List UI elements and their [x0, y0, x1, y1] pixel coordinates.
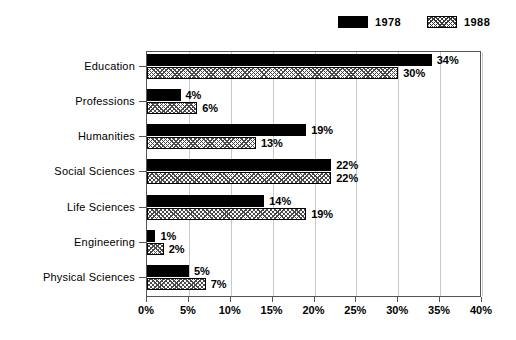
bar-value-label: 6%: [202, 102, 218, 114]
x-axis-tick: [146, 297, 147, 302]
bar-1988: [147, 102, 197, 114]
x-axis-labels: 0%5%10%15%20%25%30%35%40%: [0, 304, 516, 320]
bar-value-label: 4%: [186, 89, 202, 101]
bar-value-label: 14%: [269, 195, 291, 207]
plot-area: 34%30%4%6%19%13%22%22%14%19%1%2%5%7%: [146, 51, 481, 297]
x-axis-tick: [439, 297, 440, 302]
y-axis-tick: [139, 207, 146, 208]
bar-value-label: 22%: [336, 159, 358, 171]
y-axis-tick: [139, 171, 146, 172]
bar-chart: 1978 1988 EducationProfessionsHumanities…: [0, 0, 516, 340]
y-axis-tick: [139, 136, 146, 137]
x-axis-tick: [481, 297, 482, 302]
x-axis-tick: [188, 297, 189, 302]
bar-group: 4%6%: [147, 89, 480, 122]
y-axis-tick: [139, 277, 146, 278]
bar-value-label: 34%: [437, 54, 459, 66]
bar-group: 5%7%: [147, 265, 480, 298]
bar-value-label: 13%: [261, 137, 283, 149]
x-axis-ticks: [146, 297, 481, 303]
bar-1988: [147, 243, 164, 255]
bar-group: 19%13%: [147, 124, 480, 157]
x-axis-tick-label: 20%: [302, 304, 324, 316]
legend-item-1988: 1988: [427, 16, 490, 28]
y-axis-category-label: Professions: [75, 95, 135, 107]
y-axis-tick: [139, 101, 146, 102]
x-axis-tick-label: 25%: [344, 304, 366, 316]
bar-group: 14%19%: [147, 195, 480, 228]
legend-swatch-1978-icon: [338, 16, 368, 28]
bar-value-label: 7%: [211, 278, 227, 290]
gridline: [482, 52, 483, 296]
bar-1978: [147, 89, 181, 101]
bar-value-label: 19%: [311, 124, 333, 136]
x-axis-tick-label: 40%: [470, 304, 492, 316]
bar-1988: [147, 278, 206, 290]
x-axis-tick-label: 5%: [180, 304, 196, 316]
legend-swatch-1988-icon: [427, 16, 457, 28]
legend-label-1978: 1978: [375, 16, 401, 28]
bar-1978: [147, 124, 306, 136]
x-axis-tick: [314, 297, 315, 302]
legend-item-1978: 1978: [338, 16, 401, 28]
y-axis-category-label: Humanities: [78, 130, 135, 142]
bar-1988: [147, 67, 398, 79]
y-axis-tick: [139, 66, 146, 67]
x-axis-tick: [272, 297, 273, 302]
bar-series-container: 34%30%4%6%19%13%22%22%14%19%1%2%5%7%: [147, 52, 480, 296]
y-axis-category-label: Education: [84, 60, 135, 72]
x-axis-tick-label: 15%: [261, 304, 283, 316]
legend-label-1988: 1988: [464, 16, 490, 28]
bar-value-label: 22%: [336, 172, 358, 184]
bar-1978: [147, 230, 155, 242]
bar-1988: [147, 208, 306, 220]
y-axis-tick: [139, 242, 146, 243]
bar-group: 34%30%: [147, 54, 480, 87]
x-axis-tick: [355, 297, 356, 302]
chart-legend: 1978 1988: [338, 16, 490, 28]
bar-group: 22%22%: [147, 159, 480, 192]
y-axis-category-label: Social Sciences: [54, 165, 135, 177]
bar-value-label: 2%: [169, 243, 185, 255]
bar-1978: [147, 195, 264, 207]
bar-1978: [147, 54, 432, 66]
bar-value-label: 5%: [194, 265, 210, 277]
bar-group: 1%2%: [147, 230, 480, 263]
bar-1988: [147, 137, 256, 149]
bar-value-label: 1%: [160, 230, 176, 242]
bar-1978: [147, 159, 331, 171]
x-axis-tick-label: 35%: [428, 304, 450, 316]
bar-1988: [147, 172, 331, 184]
x-axis-tick-label: 10%: [219, 304, 241, 316]
x-axis-tick-label: 0%: [138, 304, 154, 316]
x-axis-tick: [230, 297, 231, 302]
y-axis-category-label: Engineering: [74, 236, 135, 248]
x-axis-tick-label: 30%: [386, 304, 408, 316]
x-axis-tick: [397, 297, 398, 302]
bar-1978: [147, 265, 189, 277]
y-axis-category-label: Life Sciences: [67, 201, 135, 213]
bar-value-label: 30%: [403, 67, 425, 79]
y-axis-category-label: Physical Sciences: [43, 271, 135, 283]
bar-value-label: 19%: [311, 208, 333, 220]
